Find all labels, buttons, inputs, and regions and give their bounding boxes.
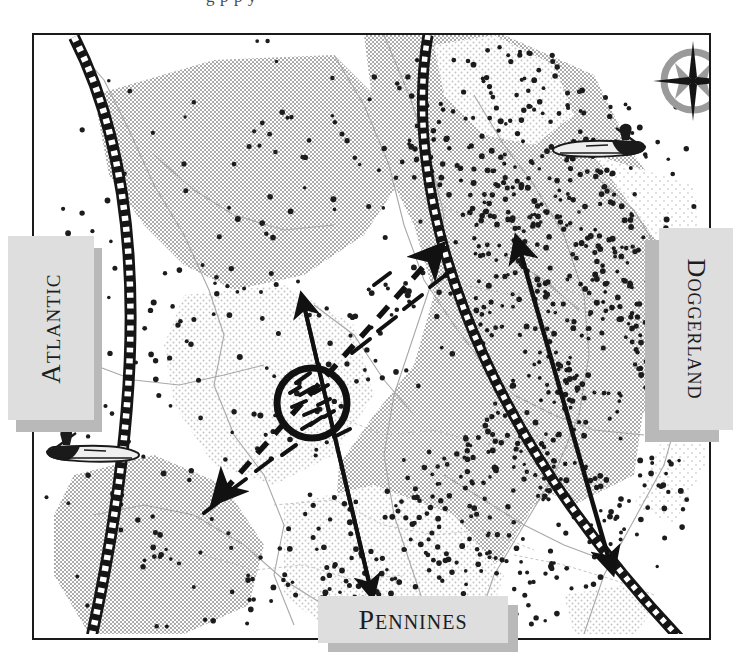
label-pennines-box: Pennines — [318, 596, 508, 643]
caption-text-sliver: g p p y — [0, 0, 739, 20]
canoe-paddler-icon — [546, 120, 652, 168]
canoe-paddler-icon-mirrored — [40, 425, 146, 473]
label-pennines-text: Pennines — [358, 604, 467, 636]
label-atlantic-text: Atlantic — [36, 273, 67, 383]
label-doggerland: Doggerland — [645, 228, 739, 446]
label-doggerland-text: Doggerland — [681, 259, 711, 400]
compass-rose-icon — [651, 39, 711, 123]
label-atlantic: Atlantic — [4, 236, 108, 432]
label-pennines: Pennines — [318, 596, 522, 654]
map-frame — [32, 33, 711, 640]
label-doggerland-box: Doggerland — [659, 228, 733, 430]
caption-fragment: g p p y — [206, 0, 257, 7]
label-atlantic-box: Atlantic — [8, 236, 94, 420]
